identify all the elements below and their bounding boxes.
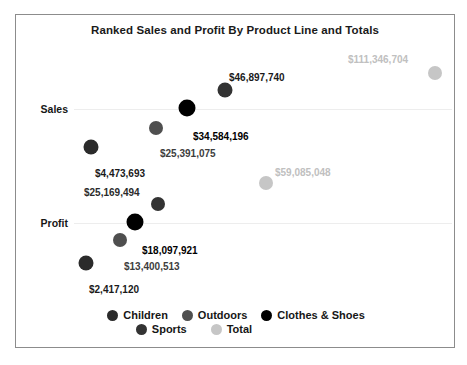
plot-area: Sales Profit $4,473,693 $25,391,075 $34,…: [16, 15, 456, 349]
legend-label-children: Children: [123, 309, 168, 321]
axis-label-profit: Profit: [16, 217, 68, 229]
gridline-sales: [74, 109, 452, 110]
axis-label-sales: Sales: [16, 103, 68, 115]
legend-label-sports: Sports: [152, 323, 187, 335]
legend-row-1: Children Outdoors Clothes & Shoes: [107, 309, 365, 321]
legend-item-children[interactable]: Children: [107, 309, 168, 321]
legend-dot-icon-clothes-and-shoes: [261, 310, 272, 321]
legend-label-clothes-and-shoes: Clothes & Shoes: [277, 309, 364, 321]
data-point-profit-children[interactable]: [79, 256, 94, 271]
legend-item-clothes-and-shoes[interactable]: Clothes & Shoes: [261, 309, 364, 321]
data-label-sales-total: $111,346,704: [348, 54, 408, 65]
chart-frame: Ranked Sales and Profit By Product Line …: [15, 14, 455, 348]
legend-dot-icon-total: [211, 324, 222, 335]
data-point-sales-total[interactable]: [428, 66, 442, 80]
data-label-sales-clothes: $34,584,196: [193, 131, 249, 142]
data-label-sales-children: $4,473,693: [95, 168, 145, 179]
legend: Children Outdoors Clothes & Shoes Sports…: [16, 309, 456, 335]
legend-row-2: Sports Total: [136, 323, 252, 335]
legend-dot-icon-children: [107, 310, 118, 321]
data-label-sales-outdoors: $25,391,075: [160, 148, 216, 159]
legend-label-total: Total: [227, 323, 252, 335]
data-point-profit-total[interactable]: [259, 176, 273, 190]
data-label-profit-clothes: $18,097,921: [142, 245, 198, 256]
data-point-profit-outdoors[interactable]: [113, 233, 127, 247]
legend-dot-icon-outdoors: [182, 310, 193, 321]
data-point-sales-children[interactable]: [84, 140, 99, 155]
data-label-profit-outdoors: $13,400,513: [124, 261, 180, 272]
legend-item-total[interactable]: Total: [211, 323, 252, 335]
data-point-profit-sports[interactable]: [151, 197, 165, 211]
data-point-sales-clothes[interactable]: [179, 100, 196, 117]
data-label-profit-sports: $25,169,494: [84, 187, 140, 198]
data-label-profit-children: $2,417,120: [89, 284, 139, 295]
data-label-sales-sports: $46,897,740: [229, 72, 285, 83]
legend-label-outdoors: Outdoors: [198, 309, 248, 321]
legend-item-sports[interactable]: Sports: [136, 323, 187, 335]
legend-item-outdoors[interactable]: Outdoors: [182, 309, 248, 321]
legend-dot-icon-sports: [136, 324, 147, 335]
data-label-profit-total: $59,085,048: [275, 167, 331, 178]
data-point-sales-sports[interactable]: [218, 83, 233, 98]
data-point-sales-outdoors[interactable]: [149, 121, 163, 135]
data-point-profit-clothes[interactable]: [127, 214, 144, 231]
